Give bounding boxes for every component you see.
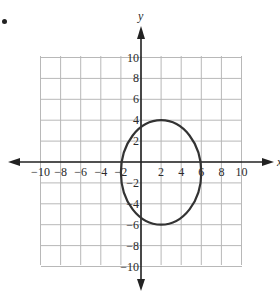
y-tick-label: 2 [133,134,139,148]
x-tick-label: 2 [158,165,164,179]
y-tick-label: 10 [127,51,139,65]
y-axis-label: y [137,9,144,23]
x-tick-label: −10 [31,165,50,179]
problem-marker-dot [2,19,7,24]
y-axis-up-arrow-icon [137,26,145,39]
y-tick-label: −2 [126,176,139,190]
x-axis-right-arrow-icon [262,158,274,166]
x-tick-label: 4 [178,165,184,179]
y-tick-label: −6 [126,218,139,232]
graph-container: xy −10−8−6−4−2246810108642−2−4−6−8−10 [0,0,280,293]
y-tick-label: 6 [133,92,139,106]
y-tick-label: −8 [126,239,139,253]
y-tick-label: 4 [133,113,139,127]
axes: xy [8,9,280,291]
x-tick-label: −6 [74,165,87,179]
coordinate-plane: xy −10−8−6−4−2246810108642−2−4−6−8−10 [0,0,280,293]
x-tick-label: −8 [54,165,67,179]
x-axis-label: x [276,155,280,169]
y-axis-down-arrow-icon [137,279,145,291]
x-axis-left-arrow-icon [8,158,20,166]
x-tick-label: 10 [236,165,248,179]
x-tick-label: 8 [218,165,224,179]
x-tick-label: −4 [94,165,107,179]
y-tick-label: −10 [120,260,139,274]
y-tick-label: 8 [133,71,139,85]
